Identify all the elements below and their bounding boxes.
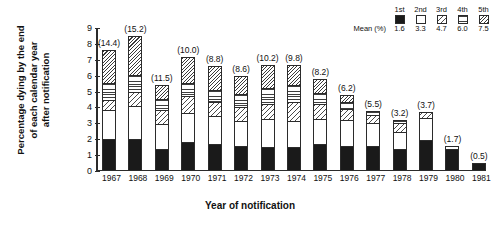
legend-mean-cells: 1.63.34.76.07.5	[389, 25, 494, 33]
bar-segment-4th	[129, 76, 141, 93]
y-axis-tick	[95, 139, 100, 140]
bar-segment-5th	[314, 80, 326, 94]
bar-column[interactable]: (10.2)	[261, 28, 275, 171]
bar-total-label: (10.2)	[256, 54, 278, 63]
x-axis-tick-label: 1974	[287, 173, 301, 183]
bar-stack[interactable]	[261, 65, 275, 171]
bar-column[interactable]: (9.8)	[287, 28, 301, 171]
bar-column[interactable]: (11.5)	[155, 28, 169, 171]
bar-column[interactable]: (10.0)	[181, 28, 195, 171]
bar-stack[interactable]	[155, 85, 169, 171]
bar-column[interactable]: (8.6)	[234, 28, 248, 171]
legend-swatch-cell	[389, 15, 410, 24]
y-axis-tick-label: 0	[87, 167, 92, 176]
bar-column[interactable]: (14.4)	[102, 28, 116, 171]
bar-stack[interactable]	[313, 79, 327, 171]
bar-column[interactable]: (1.7)	[445, 28, 459, 171]
bar-total-label: (15.2)	[124, 25, 146, 34]
y-axis-tick-label: 5	[87, 87, 92, 96]
bar-segment-3rd	[103, 101, 115, 110]
y-axis-tick	[95, 60, 100, 61]
bar-total-label: (0.5)	[470, 152, 487, 161]
bar-segment-1st	[129, 140, 141, 170]
bar-segment-5th	[235, 77, 247, 96]
bar-segment-3rd	[394, 124, 406, 133]
bar-stack[interactable]	[287, 65, 301, 171]
y-axis-tick	[95, 155, 100, 156]
y-axis-tick-label: 2	[87, 135, 92, 144]
bar-column[interactable]: (6.2)	[340, 28, 354, 171]
bar-segment-4th	[288, 86, 300, 103]
bar-segment-3rd	[314, 105, 326, 121]
bar-segment-1st	[262, 148, 274, 170]
bar-stack[interactable]	[102, 50, 116, 171]
legend-mean-1st: 1.6	[389, 25, 410, 33]
bar-segment-2nd	[209, 117, 221, 145]
bar-stack[interactable]	[366, 111, 380, 171]
bar-column[interactable]: (15.2)	[128, 28, 142, 171]
bar-segment-1st	[420, 141, 432, 170]
bar-segment-2nd	[394, 133, 406, 150]
x-axis-title: Year of notification	[0, 200, 500, 211]
legend-swatch-cell	[431, 15, 452, 24]
y-axis-tick	[95, 28, 100, 29]
bar-segment-4th	[235, 95, 247, 107]
x-axis-tick-label: 1972	[234, 173, 248, 183]
bar-segment-2nd	[341, 121, 353, 147]
legend-swatch-3rd	[437, 15, 447, 24]
bar-column[interactable]: (8.2)	[313, 28, 327, 171]
bar-column[interactable]: (3.2)	[393, 28, 407, 171]
bar-total-label: (8.8)	[206, 55, 223, 64]
bar-segment-3rd	[341, 110, 353, 121]
bar-segment-2nd	[262, 120, 274, 148]
y-axis-tick	[95, 107, 100, 108]
bar-segment-1st	[156, 150, 168, 170]
legend-header-3rd: 3rd	[431, 6, 452, 14]
bar-segment-5th	[341, 96, 353, 104]
bar-stack[interactable]	[340, 95, 354, 171]
bar-segment-5th	[262, 66, 274, 89]
bar-segment-3rd	[262, 105, 274, 121]
bar-column[interactable]: (0.5)	[472, 28, 486, 171]
bar-segment-2nd	[156, 125, 168, 150]
bar-stack[interactable]	[445, 146, 459, 171]
y-axis-tick-label: 1	[87, 151, 92, 160]
legend-header-5th: 5th	[473, 6, 494, 14]
bar-segment-5th	[288, 66, 300, 86]
bar-total-label: (9.8)	[285, 54, 302, 63]
bar-segment-3rd	[156, 111, 168, 125]
bar-total-label: (3.7)	[417, 101, 434, 110]
bar-column[interactable]: (3.7)	[419, 28, 433, 171]
bar-segment-3rd	[367, 116, 379, 124]
bar-segment-2nd	[103, 111, 115, 141]
bar-stack[interactable]	[208, 66, 222, 171]
legend-header-row: 1st2nd3rd4th5th	[353, 6, 494, 14]
legend-mean-5th: 7.5	[473, 25, 494, 33]
bar-stack[interactable]	[234, 76, 248, 171]
bar-stack[interactable]	[419, 112, 433, 171]
legend-mean-3rd: 4.7	[431, 25, 452, 33]
y-axis-line	[96, 28, 98, 171]
bar-segment-4th	[182, 84, 194, 97]
bar-column[interactable]: (8.8)	[208, 28, 222, 171]
bar-segment-1st	[209, 145, 221, 170]
bar-total-label: (5.5)	[364, 100, 381, 109]
bar-stack[interactable]	[472, 163, 486, 171]
bar-segment-3rd	[209, 103, 221, 117]
y-axis-title-line-2: of each calendar year	[28, 25, 41, 154]
bar-stack[interactable]	[181, 57, 195, 171]
bar-stack[interactable]	[393, 120, 407, 171]
legend-mean-4th: 6.0	[452, 25, 473, 33]
bar-segment-1st	[182, 143, 194, 170]
legend-mean-title: Mean (%)	[353, 25, 389, 33]
legend-swatch-row	[353, 15, 494, 24]
x-axis-ticks: 1967196819691970197119721973197419751976…	[102, 173, 486, 183]
bar-total-label: (14.4)	[98, 39, 120, 48]
bar-segment-2nd	[182, 114, 194, 144]
bar-segment-4th	[156, 100, 168, 111]
x-axis-tick-label: 1979	[419, 173, 433, 183]
bar-segment-4th	[103, 84, 115, 101]
bar-stack[interactable]	[128, 36, 142, 171]
bar-column[interactable]: (5.5)	[366, 28, 380, 171]
legend-swatch-2nd	[416, 15, 426, 24]
